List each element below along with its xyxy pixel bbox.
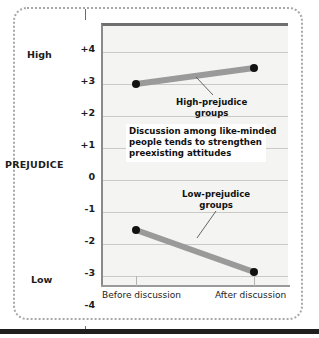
x-axis-label-after: After discussion (215, 290, 286, 301)
chart-annotation-line2: people tends to strengthen (129, 137, 263, 148)
series-line-high-prejudice (136, 68, 254, 84)
leader-line-low-prejudice (197, 211, 216, 238)
page-bottom-shade (0, 334, 319, 338)
series-label-high-prejudice-line2: groups (176, 108, 247, 119)
series-label-high-prejudice: High-prejudice groups (176, 97, 247, 118)
series-label-low-prejudice-line1: Low-prejudice (182, 189, 250, 200)
leader-line-high-prejudice (196, 77, 213, 95)
chart-annotation-line1: Discussion among like-minded (129, 126, 263, 137)
series-point-low-before (132, 226, 140, 234)
series-point-low-after (250, 268, 258, 276)
series-line-low-prejudice (136, 230, 254, 272)
series-label-high-prejudice-line1: High-prejudice (176, 97, 247, 108)
chart-annotation-line3: preexisting attitudes (129, 148, 263, 159)
chart-annotation: Discussion among like-minded people tend… (126, 124, 266, 162)
x-axis-label-before: Before discussion (102, 290, 181, 301)
series-point-high-after (250, 64, 258, 72)
series-point-high-before (132, 80, 140, 88)
chart-series-layer (0, 0, 319, 338)
series-label-low-prejudice-line2: groups (182, 200, 250, 211)
series-label-low-prejudice: Low-prejudice groups (182, 189, 250, 210)
